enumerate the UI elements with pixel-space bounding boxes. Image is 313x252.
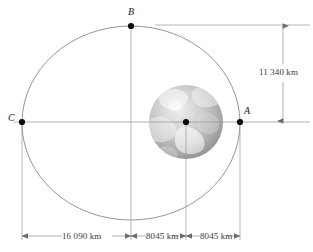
earth-center-marker xyxy=(183,119,189,125)
left-span-dimension-label: 16 090 km xyxy=(62,231,101,241)
point-c-label: C xyxy=(8,112,15,123)
point-b-marker xyxy=(128,23,134,29)
diagram-canvas xyxy=(0,0,313,252)
point-c-marker xyxy=(19,119,25,125)
middle-span-dimension-label: 8045 km xyxy=(146,231,178,241)
orbit-diagram: A B C 11 340 km 16 090 km 8045 km 8045 k… xyxy=(0,0,313,252)
point-a-label: A xyxy=(244,105,250,116)
right-span-dimension-label: 8045 km xyxy=(200,231,232,241)
vertical-dimension-label: 11 340 km xyxy=(259,67,298,77)
point-b-label: B xyxy=(128,6,134,17)
point-a-marker xyxy=(237,119,243,125)
